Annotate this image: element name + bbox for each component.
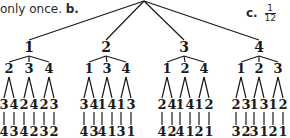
branch-line — [144, 1, 259, 40]
tree-node-level4: 2 — [49, 124, 58, 138]
tree-node-level3: 1 — [249, 97, 258, 112]
tree-node-level3: 3 — [259, 97, 268, 112]
branch-line — [241, 77, 246, 98]
tree-node-level3: 1 — [194, 97, 203, 112]
tree-node-level3: 3 — [79, 97, 88, 112]
tree-node-level4: 2 — [29, 124, 38, 138]
tree-node-level2: 2 — [4, 61, 13, 76]
branch-line — [102, 77, 107, 98]
branch-line — [185, 77, 190, 98]
tree-node-level4: 1 — [126, 124, 135, 138]
branch-line — [167, 77, 172, 98]
tree-node-level3: 3 — [49, 97, 58, 112]
tree-node-level2: 4 — [44, 61, 53, 76]
tree-node-level1: 4 — [254, 39, 264, 55]
branch-line — [9, 77, 14, 98]
tree-node-level3: 2 — [157, 97, 166, 112]
tree-node-level3: 4 — [9, 97, 18, 112]
tree-node-level4: 4 — [19, 124, 28, 138]
branch-line — [84, 77, 89, 98]
tree-node-level4: 3 — [39, 124, 48, 138]
tree-node-level3: 4 — [107, 97, 116, 112]
tree-node-level2: 3 — [24, 61, 33, 76]
tree-diagram: 1234433244242332213443314414133131244221… — [0, 0, 290, 138]
tree-node-level4: 4 — [79, 124, 88, 138]
tree-node-level3: 1 — [116, 97, 125, 112]
tree-node-level3: 1 — [268, 97, 277, 112]
tree-node-level4: 2 — [194, 124, 203, 138]
tree-node-level2: 1 — [84, 61, 93, 76]
tree-node-level2: 4 — [199, 61, 208, 76]
tree-node-level4: 1 — [204, 124, 213, 138]
tree-node-level2: 2 — [180, 61, 189, 76]
tree-node-level3: 3 — [126, 97, 135, 112]
tree-node-level3: 2 — [231, 97, 240, 112]
tree-node-level4: 4 — [97, 124, 106, 138]
branch-line — [49, 77, 54, 98]
branch-line — [44, 77, 49, 98]
tree-node-level1: 1 — [24, 39, 34, 55]
tree-node-level3: 4 — [185, 97, 194, 112]
branch-line — [29, 1, 144, 40]
tree-node-level4: 2 — [268, 124, 277, 138]
branch-line — [29, 77, 34, 98]
branch-line — [199, 77, 204, 98]
tree-node-level4: 1 — [185, 124, 194, 138]
tree-node-level2: 4 — [121, 61, 130, 76]
branch-line — [180, 77, 185, 98]
tree-node-level1: 2 — [101, 39, 111, 55]
branch-line — [4, 77, 9, 98]
branch-line — [107, 77, 112, 98]
branch-line — [278, 77, 283, 98]
tree-node-level2: 1 — [162, 61, 171, 76]
tree-node-level2: 1 — [236, 61, 245, 76]
branch-line — [259, 77, 264, 98]
tree-node-level4: 4 — [0, 124, 9, 138]
tree-node-level3: 1 — [175, 97, 184, 112]
branch-line — [162, 77, 167, 98]
branch-line — [144, 1, 184, 40]
branch-line — [121, 77, 126, 98]
branch-line — [24, 77, 29, 98]
branch-line — [89, 77, 94, 98]
tree-node-level3: 2 — [39, 97, 48, 112]
tree-node-level4: 4 — [175, 124, 184, 138]
tree-node-level4: 3 — [231, 124, 240, 138]
tree-node-level2: 2 — [254, 61, 263, 76]
tree-node-level4: 1 — [278, 124, 287, 138]
tree-node-level3: 2 — [19, 97, 28, 112]
branch-line — [126, 77, 131, 98]
tree-node-level3: 1 — [97, 97, 106, 112]
tree-node-level3: 3 — [0, 97, 9, 112]
tree-node-level2: 3 — [102, 61, 111, 76]
branch-line — [254, 77, 259, 98]
branch-line — [204, 77, 209, 98]
tree-node-level4: 4 — [157, 124, 166, 138]
tree-node-level3: 2 — [204, 97, 213, 112]
tree-node-level3: 4 — [29, 97, 38, 112]
tree-node-level4: 1 — [259, 124, 268, 138]
branch-line — [236, 77, 241, 98]
tree-node-level4: 3 — [9, 124, 18, 138]
tree-node-level4: 3 — [249, 124, 258, 138]
tree-node-level4: 3 — [116, 124, 125, 138]
branch-line — [273, 77, 278, 98]
tree-node-level1: 3 — [179, 39, 189, 55]
tree-node-level3: 2 — [278, 97, 287, 112]
tree-node-level4: 1 — [107, 124, 116, 138]
tree-node-level2: 3 — [273, 61, 282, 76]
